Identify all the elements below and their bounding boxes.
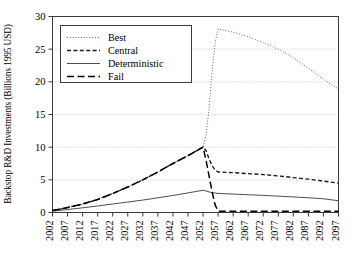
legend-label-central: Central <box>108 45 138 56</box>
legend: BestCentralDeterministicFail <box>61 26 192 83</box>
legend-label-deterministic: Deterministic <box>108 58 164 69</box>
series-line-fail <box>53 147 339 211</box>
x-tick-label: 2032 <box>134 221 145 241</box>
line-chart-plot: 051015202530 200220072012201720222027203… <box>0 0 363 272</box>
chart-figure: Backstop R&D Investments (Billions 1995 … <box>0 0 363 272</box>
x-tick-label: 2002 <box>44 221 55 241</box>
x-tick-label: 2062 <box>224 221 235 241</box>
x-tick-label: 2082 <box>284 221 295 241</box>
x-tick-label: 2052 <box>194 221 205 241</box>
x-tick-label: 2077 <box>269 221 280 241</box>
series-line-central <box>53 147 339 210</box>
x-tick-label: 2037 <box>149 221 160 241</box>
y-tick-label: 5 <box>40 174 45 185</box>
x-tick-label: 2027 <box>119 221 130 241</box>
x-tick-label: 2047 <box>179 221 190 241</box>
y-tick-label: 25 <box>35 44 46 55</box>
x-tick-label: 2097 <box>330 221 341 241</box>
x-tick-label: 2072 <box>254 221 265 241</box>
legend-label-fail: Fail <box>108 71 124 82</box>
x-tick-label: 2007 <box>59 221 70 241</box>
x-tick-label: 2067 <box>239 221 250 241</box>
y-tick-label: 10 <box>35 142 46 153</box>
x-axis-ticks: 2002200720122017202220272032203720422047… <box>44 213 341 241</box>
legend-label-best: Best <box>108 32 126 43</box>
x-tick-label: 2042 <box>164 221 175 241</box>
y-tick-label: 15 <box>35 109 46 120</box>
y-tick-label: 0 <box>40 207 45 218</box>
y-axis-ticks: 051015202530 <box>35 11 53 218</box>
x-tick-label: 2022 <box>104 221 115 241</box>
x-tick-label: 2012 <box>74 221 85 241</box>
x-tick-label: 2087 <box>299 221 310 241</box>
x-tick-label: 2057 <box>209 221 220 241</box>
y-tick-label: 30 <box>35 11 46 22</box>
x-tick-label: 2017 <box>89 221 100 241</box>
x-tick-label: 2092 <box>314 221 325 241</box>
y-tick-label: 20 <box>35 76 46 87</box>
